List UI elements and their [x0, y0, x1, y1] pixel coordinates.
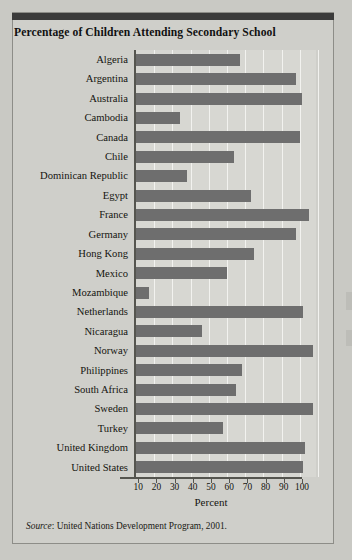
bar-row	[136, 69, 316, 88]
category-label-united-states: United States	[71, 458, 128, 477]
figure-top-rule	[12, 13, 334, 20]
bar-row	[136, 108, 316, 127]
bar-row	[136, 147, 316, 166]
chart-title: Percentage of Children Attending Seconda…	[14, 26, 314, 40]
category-label-cambodia: Cambodia	[84, 108, 128, 127]
bar-france	[136, 209, 309, 221]
category-label-sweden: Sweden	[94, 399, 128, 418]
category-label-hong-kong: Hong Kong	[78, 244, 128, 263]
bar-row	[136, 166, 316, 185]
bar-dominican-republic	[136, 170, 187, 182]
plot-area: AlgeriaArgentinaAustraliaCambodiaCanadaC…	[14, 50, 316, 480]
bar-row	[136, 399, 316, 418]
bar-nicaragua	[136, 325, 202, 337]
category-label-argentina: Argentina	[86, 69, 128, 88]
bar-row	[136, 244, 316, 263]
category-label-chile: Chile	[105, 147, 128, 166]
bar-row	[136, 225, 316, 244]
category-label-egypt: Egypt	[103, 186, 128, 205]
bar-philippines	[136, 364, 242, 376]
tick-label-100: 100	[291, 482, 313, 492]
bar-row	[136, 361, 316, 380]
bar-cambodia	[136, 112, 180, 124]
source-label: Source	[26, 521, 52, 531]
bar-south-africa	[136, 384, 236, 396]
bar-row	[136, 458, 316, 477]
category-label-turkey: Turkey	[98, 419, 128, 438]
bar-united-kingdom	[136, 442, 305, 454]
bar-mozambique	[136, 287, 149, 299]
bar-row	[136, 205, 316, 224]
category-label-netherlands: Netherlands	[77, 302, 128, 321]
source-note: Source: United Nations Development Progr…	[26, 521, 227, 531]
bar-row	[136, 50, 316, 69]
x-axis-tick-labels: 102030405060708090100	[100, 482, 330, 496]
bar-row	[136, 186, 316, 205]
category-label-mexico: Mexico	[96, 264, 128, 283]
bar-turkey	[136, 422, 223, 434]
category-label-mozambique: Mozambique	[72, 283, 128, 302]
category-label-canada: Canada	[96, 128, 128, 147]
category-label-dominican-republic: Dominican Republic	[40, 166, 128, 185]
bar-egypt	[136, 190, 251, 202]
bars-plot-region	[134, 50, 316, 477]
page-edge-artifact-top	[346, 292, 352, 310]
bar-rows	[136, 50, 316, 477]
category-label-france: France	[99, 205, 128, 224]
category-label-united-kingdom: United Kingdom	[56, 438, 128, 457]
bar-row	[136, 322, 316, 341]
category-label-norway: Norway	[94, 341, 128, 360]
bar-chile	[136, 151, 234, 163]
bar-united-states	[136, 461, 303, 473]
category-label-nicaragua: Nicaragua	[84, 322, 128, 341]
bar-row	[136, 283, 316, 302]
bar-mexico	[136, 267, 227, 279]
screenshot-page: Percentage of Children Attending Seconda…	[0, 0, 352, 560]
bar-row	[136, 264, 316, 283]
bar-row	[136, 302, 316, 321]
bar-norway	[136, 345, 313, 357]
source-text: : United Nations Development Program, 20…	[52, 521, 227, 531]
bar-hong-kong	[136, 248, 254, 260]
category-label-australia: Australia	[89, 89, 128, 108]
bar-row	[136, 419, 316, 438]
category-label-philippines: Philippines	[80, 361, 128, 380]
category-label-germany: Germany	[89, 225, 128, 244]
bar-row	[136, 128, 316, 147]
bar-netherlands	[136, 306, 303, 318]
category-label-south-africa: South Africa	[74, 380, 128, 399]
bar-row	[136, 380, 316, 399]
bar-row	[136, 89, 316, 108]
x-axis-title: Percent	[120, 496, 302, 508]
category-label-algeria: Algeria	[96, 50, 128, 69]
category-axis-labels: AlgeriaArgentinaAustraliaCambodiaCanadaC…	[14, 50, 132, 477]
bar-row	[136, 341, 316, 360]
bar-canada	[136, 131, 300, 143]
bar-australia	[136, 93, 302, 105]
bar-sweden	[136, 403, 313, 415]
bar-algeria	[136, 54, 240, 66]
page-edge-artifact-bottom	[346, 330, 352, 346]
bar-germany	[136, 228, 296, 240]
bar-argentina	[136, 73, 296, 85]
bar-row	[136, 438, 316, 457]
